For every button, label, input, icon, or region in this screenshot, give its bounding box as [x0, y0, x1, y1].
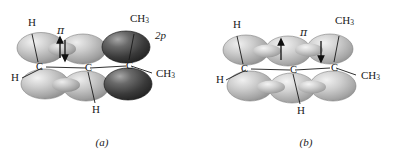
methyl-label-top-right: CH3	[130, 13, 149, 25]
carbon-label-right: C	[331, 63, 338, 74]
panel-b-stage: C C C H H H CH3 CH3 π	[204, 0, 408, 140]
hydrogen-label-left: H	[216, 74, 224, 85]
panel-a: C C C H H H CH3 CH3 π 2p (a)	[0, 0, 204, 164]
methyl-top-right-text: CH	[335, 14, 350, 26]
pi-symbol-label: π	[57, 25, 64, 36]
methyl-right-sub: 3	[376, 73, 380, 82]
methyl-right-text: CH	[361, 69, 376, 81]
two-p-orbital-label: 2p	[155, 30, 166, 41]
lower-pi-lobes-light	[21, 69, 109, 101]
panel-a-stage: C C C H H H CH3 CH3 π 2p	[0, 0, 204, 140]
methyl-top-right-sub: 3	[350, 18, 354, 27]
molecular-orbital-figure: C C C H H H CH3 CH3 π 2p (a)	[0, 0, 408, 164]
hydrogen-label-top-left: H	[28, 17, 36, 28]
pi-symbol-label: π	[300, 27, 307, 38]
hydrogen-label-bottom: H	[92, 104, 100, 115]
carbon-label-right: C	[126, 61, 133, 72]
carbon-label-left: C	[241, 64, 248, 75]
panel-b-caption: (b)	[204, 136, 408, 148]
methyl-right-text: CH	[156, 67, 171, 79]
hydrogen-label-bottom: H	[297, 105, 305, 116]
methyl-top-right-sub: 3	[145, 16, 149, 25]
upper-pi-lobes-light	[17, 33, 106, 65]
methyl-label-right: CH3	[156, 68, 175, 80]
methyl-label-right: CH3	[361, 70, 380, 82]
carbon-label-center: C	[85, 63, 92, 74]
panel-a-caption: (a)	[0, 136, 204, 148]
hydrogen-label-left: H	[11, 72, 19, 83]
methyl-top-right-text: CH	[130, 12, 145, 24]
lower-2p-lobe-dark	[104, 68, 152, 100]
lower-delocalized-lobes	[227, 71, 356, 103]
carbon-label-center: C	[290, 65, 297, 76]
hydrogen-label-top-left: H	[233, 19, 241, 30]
carbon-label-left: C	[36, 62, 43, 73]
panel-b: C C C H H H CH3 CH3 π (b)	[204, 0, 408, 164]
upper-2p-lobe-dark	[102, 31, 150, 63]
methyl-label-top-right: CH3	[335, 15, 354, 27]
methyl-right-sub: 3	[171, 71, 175, 80]
